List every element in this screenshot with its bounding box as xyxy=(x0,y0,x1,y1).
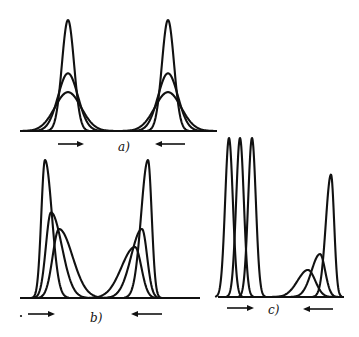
stray-dot xyxy=(20,315,22,317)
panel-c: c) xyxy=(216,138,344,317)
panel-c-curves xyxy=(216,138,342,297)
panel-c-skewed-group-peak-2 xyxy=(291,254,337,297)
panel-b-left-group-peak-1 xyxy=(32,160,68,298)
panel-b: b) xyxy=(20,160,200,325)
panel-b-arrow-left xyxy=(131,311,162,317)
panel-a-label: a) xyxy=(118,140,130,154)
panel-a-curves xyxy=(23,20,213,131)
panel-c-label: c) xyxy=(268,303,280,317)
panel-a-arrow-left xyxy=(155,141,185,147)
panel-c-arrow-left xyxy=(303,306,333,312)
panel-b-label: b) xyxy=(90,311,103,325)
panel-a-right-group-peak-3 xyxy=(123,92,213,131)
panel-a-arrow-right xyxy=(58,141,84,147)
panel-a-left-group-peak-3 xyxy=(23,92,113,131)
panel-b-curves xyxy=(32,160,160,298)
panel-c-arrow-right xyxy=(227,305,254,311)
panel-b-arrow-right xyxy=(28,311,55,317)
peak-broadening-diagram: a) b) c) xyxy=(0,0,359,337)
panel-a: a) xyxy=(20,20,217,154)
